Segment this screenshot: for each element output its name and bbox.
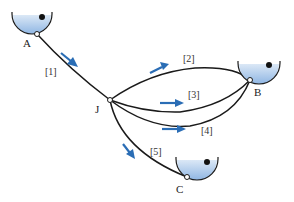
pipe-2-label: [2] bbox=[183, 53, 195, 64]
pipe-network-diagram: A B C J [1] [2] [3] [4] [5] bbox=[0, 0, 294, 202]
flow-arrow-5 bbox=[123, 144, 135, 159]
pipes bbox=[37, 34, 250, 177]
pipe-3 bbox=[110, 80, 250, 112]
reservoir-b-label: B bbox=[254, 86, 261, 98]
flow-arrow-3 bbox=[160, 99, 184, 107]
pipe-3-label: [3] bbox=[188, 89, 200, 100]
pipe-1-label: [1] bbox=[45, 66, 57, 77]
pipe-4-label: [4] bbox=[201, 125, 213, 136]
arrow-head-icon bbox=[175, 99, 184, 107]
node-c bbox=[185, 175, 190, 180]
reservoir-c-water bbox=[177, 160, 217, 180]
junction-j: J bbox=[95, 98, 113, 116]
pipe-2 bbox=[110, 68, 250, 100]
node-j bbox=[108, 98, 113, 103]
reservoir-b-level-dot bbox=[266, 62, 272, 68]
reservoir-a-label: A bbox=[23, 37, 31, 49]
pipe-5-label: [5] bbox=[150, 146, 162, 157]
junction-j-label: J bbox=[95, 103, 100, 115]
reservoir-a-level-dot bbox=[39, 14, 45, 20]
reservoir-c: C bbox=[176, 157, 218, 195]
arrow-head-icon bbox=[160, 62, 169, 70]
node-a bbox=[35, 32, 40, 37]
flow-arrow-2 bbox=[150, 62, 169, 73]
reservoir-a-water bbox=[13, 15, 51, 34]
node-b bbox=[248, 78, 253, 83]
reservoir-b-water bbox=[239, 64, 279, 84]
reservoir-c-level-dot bbox=[204, 159, 210, 165]
reservoir-c-label: C bbox=[176, 183, 183, 195]
